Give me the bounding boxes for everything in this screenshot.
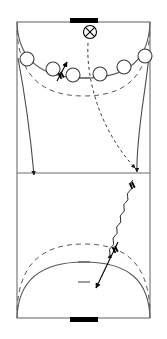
handball-court-diagram <box>0 0 167 339</box>
shot-on-goal-arrow <box>96 242 118 288</box>
top-goal <box>70 18 98 23</box>
court-canvas <box>0 0 167 339</box>
player-run-right-sideline <box>137 55 149 172</box>
bottom-9m-free-throw-line <box>17 244 150 310</box>
defender-left-wing[interactable] <box>20 52 34 66</box>
ball-marker <box>84 26 97 39</box>
bottom-6m-goal-area-line <box>17 262 150 318</box>
movement-layer <box>18 43 149 288</box>
bottom-goal <box>70 317 98 322</box>
defender-right-wing[interactable] <box>138 49 152 63</box>
bar-marks-layer <box>58 72 134 253</box>
dribble-path-zigzag <box>108 180 133 258</box>
defender-right-back[interactable] <box>117 60 131 74</box>
defender-right-centre[interactable] <box>93 67 107 81</box>
defender-left-centre[interactable] <box>66 68 80 82</box>
